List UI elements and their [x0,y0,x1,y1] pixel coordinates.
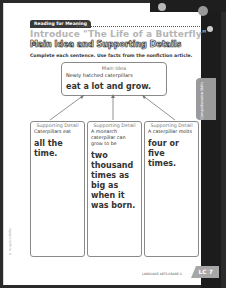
copyright-text: © Houghton Mifflin [8,228,12,256]
page-number: LC 7 [199,268,214,275]
detail-heading: Supporting Detail [31,123,84,128]
side-tab: Comprehension Skills [196,78,216,120]
detail-heading: Supporting Detail [88,123,141,128]
supporting-detail-box: Supporting Detail A monarch caterpillar … [87,121,142,257]
detail-lead: A monarch caterpillar can grow to be [91,129,138,147]
detail-heading: Supporting Detail [145,123,198,128]
detail-lead: A caterpillar molts [148,129,195,135]
supporting-detail-box: Supporting Detail Caterpillars eat all t… [30,121,85,257]
footer-text: LANGUAGE ARTS GRADE 4 [142,272,182,276]
detail-lead: Caterpillars eat [34,129,81,135]
detail-answer: four or five times. [148,139,195,169]
supporting-detail-box: Supporting Detail A caterpillar molts fo… [144,121,199,257]
detail-answer: all the time. [34,139,81,159]
detail-answer: two thousand times as big as when it was… [91,151,138,211]
side-tab-label: Comprehension Skills [200,82,204,120]
